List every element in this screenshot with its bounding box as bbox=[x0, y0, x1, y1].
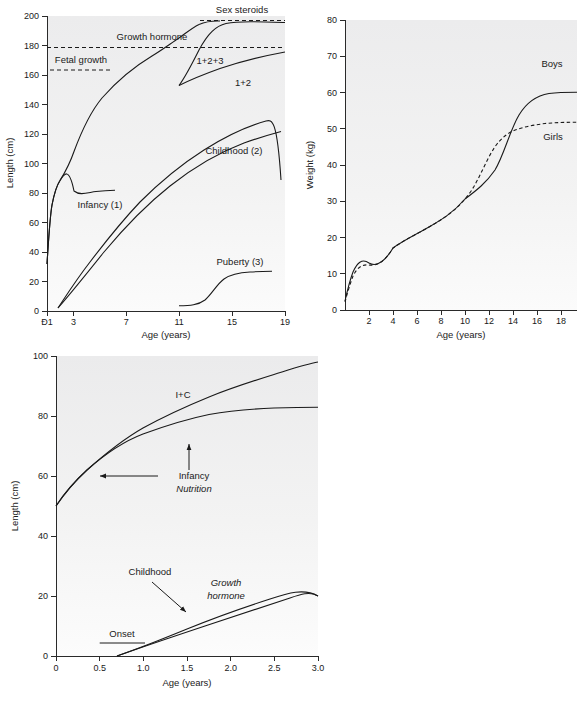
x-axis-tick-labels: Ð1 3 7 11 15 19 bbox=[41, 317, 290, 327]
one-plus-two-label: 1+2 bbox=[235, 77, 251, 88]
y-axis-title: Weight (kg) bbox=[304, 141, 315, 189]
x-tick-8: 8 bbox=[438, 316, 443, 326]
x-tick-1-5: 1.5 bbox=[181, 663, 194, 673]
y-tick-30: 30 bbox=[327, 196, 337, 206]
x-axis-title: Age (years) bbox=[141, 329, 190, 340]
fetal-growth-label: Fetal growth bbox=[55, 54, 107, 65]
plot-background bbox=[56, 356, 318, 656]
x-tick-18: 18 bbox=[556, 316, 566, 326]
nutrition-annotation-label: Nutrition bbox=[176, 483, 211, 494]
panel-c-early-length-chart: 0 20 40 60 80 100 0 0.5 1.0 1.5 2.0 2.5 … bbox=[0, 340, 400, 711]
y-tick-40: 40 bbox=[29, 247, 39, 257]
y-tick-60: 60 bbox=[29, 218, 39, 228]
i-plus-c-label: I+C bbox=[175, 389, 190, 400]
x-tick-6: 6 bbox=[414, 316, 419, 326]
y-tick-0: 0 bbox=[332, 305, 337, 315]
panel-b-svg: 0 10 20 30 40 50 60 70 80 2 4 6 8 10 12 … bbox=[300, 0, 582, 340]
x-tick-15: 15 bbox=[227, 317, 237, 327]
onset-label: Onset bbox=[109, 628, 135, 639]
girls-label: Girls bbox=[543, 131, 563, 142]
y-tick-20: 20 bbox=[327, 233, 337, 243]
x-tick-7: 7 bbox=[124, 317, 129, 327]
y-tick-20: 20 bbox=[38, 591, 48, 601]
y-tick-180: 180 bbox=[24, 41, 39, 51]
y-axis-tick-labels: 0 20 40 60 80 100 bbox=[33, 351, 48, 661]
y-tick-100: 100 bbox=[24, 159, 39, 169]
x-axis-ticks bbox=[369, 310, 561, 315]
y-axis-ticks bbox=[340, 20, 345, 310]
y-axis-tick-labels: 0 20 40 60 80 100 120 140 160 180 200 bbox=[24, 11, 39, 316]
puberty-label: Puberty (3) bbox=[217, 256, 264, 267]
infancy-annotation-label: Infancy bbox=[179, 470, 210, 481]
y-tick-10: 10 bbox=[327, 269, 337, 279]
y-axis-ticks bbox=[51, 356, 56, 656]
x-tick-2-0: 2.0 bbox=[224, 663, 237, 673]
y-tick-120: 120 bbox=[24, 129, 39, 139]
childhood-label: Childhood (2) bbox=[205, 145, 262, 156]
x-tick-birth: Ð1 bbox=[41, 317, 53, 327]
x-tick-16: 16 bbox=[532, 316, 542, 326]
x-tick-12: 12 bbox=[484, 316, 494, 326]
panel-a-length-chart: 0 20 40 60 80 100 120 140 160 180 200 Ð1… bbox=[0, 0, 300, 340]
x-axis-tick-labels: 0 0.5 1.0 1.5 2.0 2.5 3.0 bbox=[53, 663, 324, 673]
y-tick-140: 140 bbox=[24, 100, 39, 110]
y-tick-80: 80 bbox=[327, 15, 337, 25]
y-tick-0: 0 bbox=[34, 306, 39, 316]
x-tick-2: 2 bbox=[366, 316, 371, 326]
x-axis-tick-labels: 2 4 6 8 10 12 14 16 18 bbox=[366, 316, 566, 326]
y-tick-100: 100 bbox=[33, 351, 48, 361]
growth-hormone-label-line1: Growth bbox=[211, 577, 242, 588]
boys-label: Boys bbox=[541, 58, 562, 69]
y-tick-60: 60 bbox=[327, 88, 337, 98]
infancy-label: Infancy (1) bbox=[78, 199, 123, 210]
x-axis-title: Age (years) bbox=[436, 329, 485, 340]
x-tick-11: 11 bbox=[174, 317, 183, 327]
y-axis-title: Length (cm) bbox=[4, 138, 15, 189]
x-axis-ticks bbox=[56, 656, 318, 661]
y-axis-ticks bbox=[42, 16, 47, 311]
y-tick-80: 80 bbox=[29, 188, 39, 198]
y-tick-0: 0 bbox=[43, 651, 48, 661]
y-tick-20: 20 bbox=[29, 277, 39, 287]
x-tick-1-0: 1.0 bbox=[137, 663, 150, 673]
y-tick-80: 80 bbox=[38, 411, 48, 421]
one-plus-two-plus-three-label: 1+2+3 bbox=[197, 55, 224, 66]
y-tick-50: 50 bbox=[327, 124, 337, 134]
x-axis-title: Age (years) bbox=[162, 677, 211, 688]
y-axis-title: Length (cm) bbox=[9, 481, 20, 532]
x-tick-19: 19 bbox=[280, 317, 290, 327]
panel-a-svg: 0 20 40 60 80 100 120 140 160 180 200 Ð1… bbox=[0, 0, 300, 340]
y-tick-70: 70 bbox=[327, 51, 337, 61]
growth-hormone-label-line2: hormone bbox=[207, 590, 245, 601]
sex-steroids-label: Sex steroids bbox=[216, 4, 269, 15]
x-tick-3-0: 3.0 bbox=[312, 663, 325, 673]
panel-b-weight-chart: 0 10 20 30 40 50 60 70 80 2 4 6 8 10 12 … bbox=[300, 0, 582, 340]
x-tick-0-5: 0.5 bbox=[93, 663, 106, 673]
y-tick-60: 60 bbox=[38, 471, 48, 481]
x-axis-ticks bbox=[47, 311, 285, 316]
y-tick-200: 200 bbox=[24, 11, 39, 21]
growth-hormone-label: Growth hormone bbox=[117, 31, 188, 42]
x-tick-2-5: 2.5 bbox=[268, 663, 281, 673]
x-tick-10: 10 bbox=[460, 316, 470, 326]
x-tick-3: 3 bbox=[71, 317, 76, 327]
y-tick-40: 40 bbox=[327, 160, 337, 170]
y-tick-160: 160 bbox=[24, 70, 39, 80]
panel-c-svg: 0 20 40 60 80 100 0 0.5 1.0 1.5 2.0 2.5 … bbox=[0, 340, 400, 711]
x-tick-14: 14 bbox=[508, 316, 518, 326]
y-tick-40: 40 bbox=[38, 531, 48, 541]
x-tick-4: 4 bbox=[390, 316, 395, 326]
childhood-annotation-label: Childhood bbox=[129, 566, 172, 577]
y-axis-tick-labels: 0 10 20 30 40 50 60 70 80 bbox=[327, 15, 337, 315]
x-tick-0: 0 bbox=[53, 663, 58, 673]
